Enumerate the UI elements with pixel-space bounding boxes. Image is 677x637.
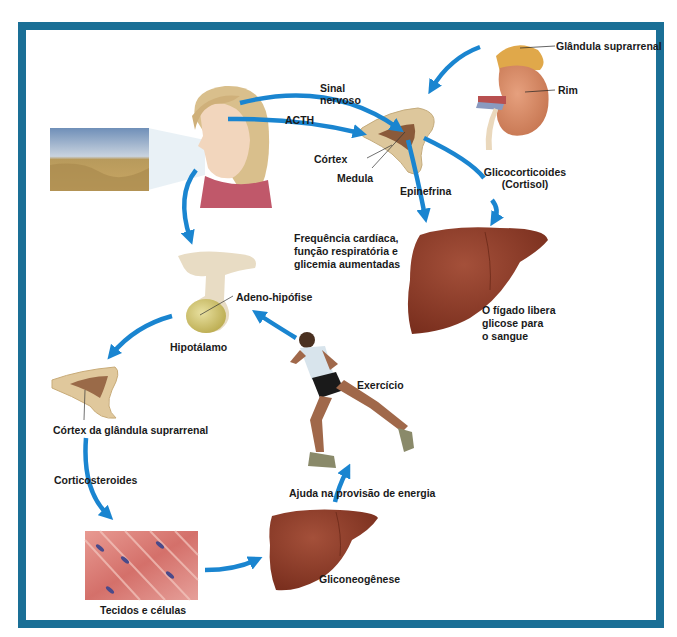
label-gluconeogenesis: Gliconeogênese [319,573,400,586]
label-adrenal-gland: Glândula suprarrenal [556,40,662,53]
runner [290,332,414,468]
label-liver-release-line1: O fígado libera [482,304,556,317]
label-nerve-signal-line1: Sinal [320,82,345,95]
label-adrenal-cortex: Córtex da glândula suprarrenal [53,424,208,437]
arrow-kidney-to-adrenal [432,47,480,88]
label-effects-line2: função respiratória e [294,245,398,258]
label-tissues: Tecidos e células [100,604,186,617]
label-effects-line1: Frequência cardíaca, [294,232,398,245]
label-nerve-signal-line2: nervoso [320,94,361,107]
label-energy: Ajuda na provisão de energia [289,487,435,500]
label-corticosteroids: Corticosteroides [54,474,137,487]
muscle-tissue [85,531,198,600]
label-effects-line3: glicemia aumentadas [294,258,400,271]
label-kidney: Rim [558,84,578,97]
label-hypothalamus: Hipotálamo [170,341,227,354]
label-glucocorticoids-line2: (Cortisol) [470,178,580,191]
arrow-tissue-to-liver [205,560,256,570]
arrow-head-to-pituitary [184,170,196,238]
woman-head [192,86,272,208]
label-adenohypophysis: Adeno-hipófise [236,291,312,304]
label-epinephrine: Epinefrina [400,185,451,198]
label-medulla: Medula [337,172,373,185]
adrenal-cortex-cross-section [52,367,118,420]
label-exercise: Exercício [357,379,404,392]
arrow-hypothalamus-to-cortex [112,316,172,354]
landscape-photo [50,128,205,191]
kidney-with-adrenal [476,45,555,150]
label-acth: ACTH [285,114,314,127]
label-cortex: Córtex [314,153,347,166]
arrow-exercise-to-pituitary [258,314,296,338]
label-liver-release-line3: o sangue [482,330,528,343]
label-glucocorticoids-line1: Glicocorticoides [470,166,580,179]
label-liver-release-line2: glicose para [482,317,543,330]
